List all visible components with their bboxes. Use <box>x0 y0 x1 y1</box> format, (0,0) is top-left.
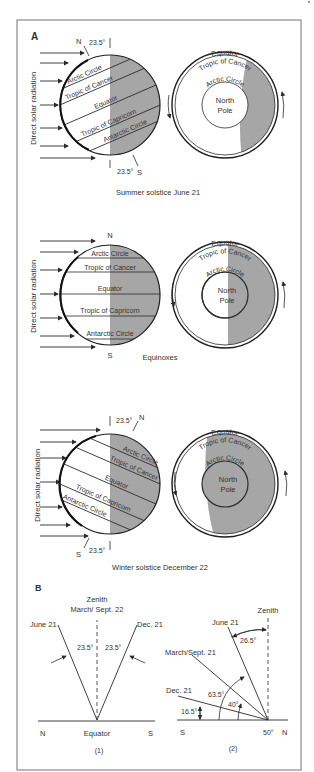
fig2-north-label: N <box>282 728 287 737</box>
winter-pole-line1: North <box>219 475 237 484</box>
fig1-equator-label: Equator <box>84 729 111 738</box>
winter-south-label: S <box>76 550 81 559</box>
equinox-tropic-capricorn-label: Tropic of Capricorn <box>80 307 139 315</box>
fig1-zenith-date: March/ Sept. 22 <box>71 605 124 614</box>
summer-solstice-group: Direct solar radiation Arct <box>29 37 284 197</box>
fig2-june-label: June 21 <box>212 618 239 627</box>
rotation-arrow-right <box>285 471 287 496</box>
fig2-angle-march: 63.5° <box>208 691 225 698</box>
equinox-tropic-cancer-label: Tropic of Cancer <box>84 264 136 272</box>
equinox-north-label: N <box>107 231 112 240</box>
winter-pole-line2: Pole <box>220 485 235 494</box>
fig1-dec-label: Dec. 21 <box>137 620 163 629</box>
fig2-number: (2) <box>229 745 238 753</box>
summer-caption: Summer solstice June 21 <box>116 188 200 197</box>
radiation-label-summer: Direct solar radiation <box>29 72 38 145</box>
equinox-pole-line2: Pole <box>219 296 234 305</box>
radiation-label-equinox: Direct solar radiation <box>29 260 38 333</box>
seasons-diagram: A Direct solar radiation <box>0 0 314 772</box>
winter-caption: Winter solstice December 22 <box>112 563 208 572</box>
summer-pole-line2: Pole <box>217 106 232 115</box>
fig1-north-label: N <box>40 729 45 738</box>
fig1-angle-left: 23.5° <box>77 644 94 651</box>
summer-tilt-top: 23.5° <box>89 39 106 46</box>
equinox-caption: Equinoxes <box>142 353 177 362</box>
summer-north-label: N <box>76 37 81 46</box>
radiation-label-winter: Direct solar radiation <box>33 449 42 522</box>
winter-tilt-bottom: 23.5° <box>89 547 106 554</box>
fig2-angle-40: 40° <box>228 701 239 708</box>
winter-solstice-group: Direct solar radiation Arctic Circle <box>33 413 287 572</box>
globe-winter <box>46 431 174 537</box>
equinox-group: Direct solar radiation Arctic Circle <box>29 231 285 362</box>
corner-mark <box>308 1 310 3</box>
fig2-dec-label: Dec. 21 <box>166 686 192 695</box>
winter-north-label: N <box>139 413 144 422</box>
globe-summer <box>46 52 174 158</box>
fig1-zenith-label: Zenith <box>87 595 108 604</box>
equinox-south-label: S <box>107 351 112 360</box>
fig2-march-label: March/Sept. 21 <box>165 648 216 657</box>
fig2-latitude-label: 50° <box>263 729 274 736</box>
equinox-antarctic-circle-label: Antarctic Circle <box>86 330 133 337</box>
rotation-arrow-left <box>168 95 170 118</box>
panel-b-label: B <box>35 583 42 593</box>
fig1-june-label: June 21 <box>30 620 57 629</box>
fig2-angle-dec: 16.5° <box>181 708 198 715</box>
summer-tilt-bottom: 23.5° <box>117 168 134 175</box>
fig2-zenith-label: Zenith <box>258 606 279 615</box>
fig1-number: (1) <box>95 747 104 755</box>
fig1-angle-right: 23.5° <box>105 644 122 651</box>
equinox-pole-line1: North <box>218 286 236 295</box>
fig2-angle-june: 26.5° <box>240 637 257 644</box>
rotation-arrow-right <box>283 282 285 308</box>
zenith-figure-2: Zenith June 21 March/Sept. 21 Dec. 21 26… <box>165 606 288 753</box>
equinox-equator-label: Equator <box>98 285 123 293</box>
rotation-arrow-right <box>282 92 284 118</box>
summer-south-label: S <box>137 168 142 177</box>
equinox-arctic-circle-label: Arctic Circle <box>91 250 128 257</box>
fig2-south-label: S <box>180 728 185 737</box>
zenith-figure-1: Zenith March/ Sept. 22 June 21 Dec. 21 2… <box>30 595 163 755</box>
panel-a-label: A <box>31 31 38 42</box>
fig1-south-label: S <box>148 729 153 738</box>
summer-pole-line1: North <box>216 96 234 105</box>
winter-tilt-top: 23.5° <box>116 417 133 424</box>
